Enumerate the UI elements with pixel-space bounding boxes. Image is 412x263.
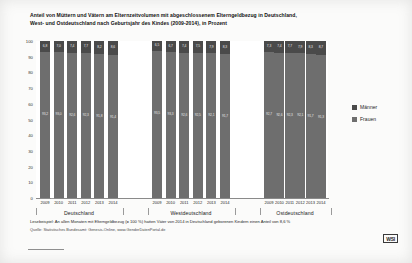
stacked-bar[interactable]: 8,291,8 [94, 41, 104, 198]
x-axis-year-label: 2013 [94, 200, 104, 208]
bar-segment-frauen[interactable]: 93,0 [54, 52, 64, 198]
bar-segment-maenner[interactable]: 8,3 [220, 41, 230, 54]
wsi-logo: WSI [383, 234, 398, 243]
stacked-bar[interactable]: 7,492,6 [67, 41, 77, 198]
x-axis-year-label: 2010 [166, 200, 176, 208]
bar-segment-frauen[interactable]: 91,7 [306, 54, 316, 198]
bar-segment-frauen[interactable]: 92,1 [206, 53, 216, 198]
bar-segment-frauen[interactable]: 93,3 [166, 52, 176, 198]
bar-value-label-maenner: 6,8 [43, 45, 47, 48]
x-axis-year-label: 2013 [206, 200, 216, 208]
bar-segment-frauen[interactable]: 92,3 [81, 53, 91, 198]
stacked-bar[interactable]: 6,893,2 [40, 41, 50, 198]
bar-segment-maenner[interactable]: 7,0 [54, 41, 64, 52]
bar-value-label-frauen: 92,3 [287, 114, 293, 117]
bar-value-label-frauen: 92,5 [195, 114, 201, 117]
x-axis-year-label: 2012 [295, 200, 305, 208]
bar-segment-maenner[interactable]: 6,8 [40, 41, 50, 52]
chart-title-line-2: West- und Ostdeutschland nach Geburtsjah… [30, 19, 360, 27]
stacked-bar[interactable]: 7,992,1 [206, 41, 216, 198]
bar-segment-maenner[interactable]: 8,3 [306, 41, 316, 54]
bar-value-label-frauen: 93,5 [154, 112, 160, 115]
bar-segment-maenner[interactable]: 7,5 [193, 41, 203, 53]
stacked-bar[interactable]: 7,492,6 [274, 41, 284, 198]
bar-segment-maenner[interactable]: 7,7 [285, 41, 295, 53]
bar-value-label-frauen: 92,3 [83, 114, 89, 117]
bar-segment-maenner[interactable]: 8,6 [108, 41, 118, 55]
bar-segment-maenner[interactable]: 7,4 [179, 41, 189, 53]
x-axis-year-label: 2011 [179, 200, 189, 208]
stacked-bar[interactable]: 7,592,5 [193, 41, 203, 198]
stacked-bar[interactable]: 7,093,0 [54, 41, 64, 198]
stacked-bar[interactable]: 7,792,3 [81, 41, 91, 198]
bar-value-label-frauen: 93,3 [168, 113, 174, 116]
bar-value-label-maenner: 6,5 [155, 44, 159, 47]
x-axis-year-label: 2014 [220, 200, 230, 208]
bar-segment-frauen[interactable]: 91,8 [94, 54, 104, 198]
bar-segment-maenner[interactable]: 7,4 [274, 41, 284, 53]
bar-group-bars: 6,893,27,093,07,492,67,792,38,291,88,691… [40, 41, 118, 198]
bar-value-label-maenner: 7,4 [182, 45, 186, 48]
stacked-bar[interactable]: 8,691,4 [108, 41, 118, 198]
bar-segment-frauen[interactable]: 92,6 [179, 53, 189, 198]
bar-segment-maenner[interactable]: 7,3 [264, 41, 274, 52]
x-axis-year-label: 2011 [67, 200, 77, 208]
bar-value-label-maenner: 7,7 [84, 45, 88, 48]
group-label-deutschland: Deutschland [28, 210, 130, 219]
bar-segment-frauen[interactable]: 92,6 [274, 53, 284, 198]
bar-segment-maenner[interactable]: 7,4 [67, 41, 77, 53]
bar-value-label-frauen: 92,6 [181, 114, 187, 117]
y-axis-tick-label: 80 [19, 70, 33, 75]
x-axis-year-label: 2010 [54, 200, 64, 208]
bar-segment-maenner[interactable]: 8,7 [316, 41, 326, 55]
stacked-bar[interactable]: 6,793,3 [166, 41, 176, 198]
bar-value-label-frauen: 93,2 [42, 113, 48, 116]
footer-rule [28, 249, 64, 250]
x-axis-year-label: 2010 [274, 200, 284, 208]
y-axis-tick-label: 10 [19, 180, 33, 185]
y-axis-tick-label: 90 [19, 55, 33, 60]
stacked-bar[interactable]: 7,492,6 [179, 41, 189, 198]
chart-title: Anteil von Müttern und Vätern am Elternz… [30, 11, 360, 27]
stacked-bar[interactable]: 7,992,1 [295, 41, 305, 198]
bar-segment-maenner[interactable]: 7,9 [295, 41, 305, 53]
stacked-bar[interactable]: 8,391,7 [306, 41, 316, 198]
bar-segment-frauen[interactable]: 92,1 [295, 53, 305, 198]
stacked-bar[interactable]: 7,392,7 [264, 41, 274, 198]
bar-segment-frauen[interactable]: 92,5 [193, 53, 203, 198]
bar-value-label-frauen: 92,6 [69, 114, 75, 117]
legend-swatch-maenner-icon [352, 105, 357, 110]
bar-segment-frauen[interactable]: 92,7 [264, 52, 274, 198]
stacked-bar[interactable]: 8,391,7 [220, 41, 230, 198]
bar-segment-frauen[interactable]: 91,3 [316, 55, 326, 198]
legend-item-frauen[interactable]: Frauen [352, 116, 408, 122]
bar-segment-maenner[interactable]: 6,5 [152, 41, 162, 51]
x-axis-year-labels: 200920102011201220132014 [264, 200, 326, 208]
group-label-westdeutschland: Westdeutschland [140, 210, 242, 219]
stacked-bar[interactable]: 7,792,3 [285, 41, 295, 198]
x-axis-year-labels: 200920102011201220132014 [40, 200, 118, 208]
bar-segment-frauen[interactable]: 92,3 [285, 53, 295, 198]
bar-segment-frauen[interactable]: 91,7 [220, 54, 230, 198]
bar-value-label-frauen: 91,3 [318, 116, 324, 119]
bar-segment-frauen[interactable]: 93,2 [40, 52, 50, 198]
y-axis-tick-label: 30 [19, 149, 33, 154]
bar-value-label-maenner: 7,9 [209, 46, 213, 49]
bar-segment-maenner[interactable]: 8,2 [94, 41, 104, 54]
stacked-bar[interactable]: 6,593,5 [152, 41, 162, 198]
bar-segment-maenner[interactable]: 7,9 [206, 41, 216, 53]
bar-value-label-maenner: 8,7 [319, 46, 323, 49]
bar-segment-frauen[interactable]: 92,6 [67, 53, 77, 198]
bar-value-label-maenner: 7,4 [277, 45, 281, 48]
bar-segment-frauen[interactable]: 93,5 [152, 51, 162, 198]
legend-swatch-frauen-icon [352, 117, 357, 122]
bar-value-label-maenner: 7,5 [196, 45, 200, 48]
bar-segment-maenner[interactable]: 7,7 [81, 41, 91, 53]
bar-value-label-frauen: 92,6 [276, 114, 282, 117]
stacked-bar[interactable]: 8,791,3 [316, 41, 326, 198]
bar-segment-frauen[interactable]: 91,4 [108, 55, 118, 199]
legend-item-maenner[interactable]: Männer [352, 104, 408, 110]
bar-value-label-maenner: 7,0 [56, 45, 60, 48]
bar-segment-maenner[interactable]: 6,7 [166, 41, 176, 52]
y-axis-tick-mark [51, 198, 54, 199]
